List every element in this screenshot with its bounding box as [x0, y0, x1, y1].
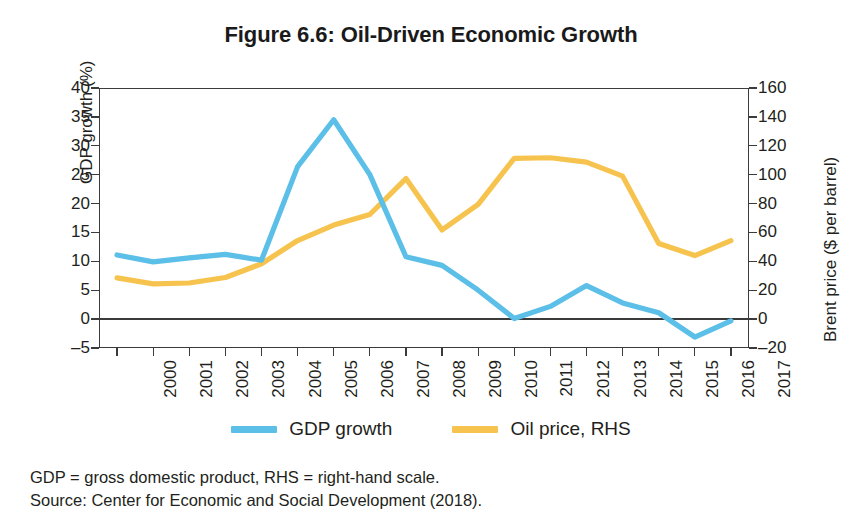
- x-tick-label: 2010: [522, 360, 542, 398]
- series-lines: [99, 88, 749, 348]
- figure-title: Figure 6.6: Oil-Driven Economic Growth: [0, 22, 862, 48]
- right-tick-mark: [749, 116, 757, 117]
- x-tick-mark: [550, 348, 551, 356]
- right-tick-label: 100: [758, 166, 802, 183]
- oil-price-line: [117, 158, 731, 284]
- right-tick-label: 120: [758, 137, 802, 154]
- left-tick-mark: [91, 232, 99, 233]
- x-tick-label: 2017: [775, 360, 795, 398]
- right-tick-label: 0: [758, 310, 802, 327]
- x-tick-label: 2007: [414, 360, 434, 398]
- right-tick-label: –20: [758, 339, 802, 356]
- x-tick-mark: [333, 348, 334, 356]
- right-tick-label: 160: [758, 79, 802, 96]
- figure-footnotes: GDP = gross domestic product, RHS = righ…: [30, 466, 730, 513]
- x-tick-label: 2013: [630, 360, 650, 398]
- legend-swatch-oil-price: [452, 426, 498, 433]
- x-tick-mark: [189, 348, 190, 356]
- left-tick-mark: [91, 203, 99, 204]
- x-tick-label: 2015: [703, 360, 723, 398]
- right-tick-mark: [749, 87, 757, 88]
- x-tick-label: 2005: [341, 360, 361, 398]
- right-tick-label: 20: [758, 281, 802, 298]
- x-tick-label: 2011: [557, 360, 577, 397]
- gdp-growth-line: [117, 120, 731, 337]
- x-tick-mark: [478, 348, 479, 356]
- x-tick-mark: [730, 348, 731, 356]
- x-tick-label: 2003: [269, 360, 289, 398]
- left-tick-label: 15: [50, 223, 90, 240]
- legend-label-oil-price: Oil price, RHS: [510, 418, 630, 440]
- left-tick-label: 20: [50, 195, 90, 212]
- x-tick-label: 2002: [233, 360, 253, 398]
- x-tick-mark: [694, 348, 695, 356]
- footnote-definitions: GDP = gross domestic product, RHS = righ…: [30, 466, 730, 489]
- x-tick-label: 2000: [161, 360, 181, 398]
- x-tick-mark: [441, 348, 442, 356]
- footnote-source: Source: Center for Economic and Social D…: [30, 489, 730, 512]
- x-tick-mark: [225, 348, 226, 356]
- right-tick-mark: [749, 232, 757, 233]
- right-tick-mark: [749, 347, 757, 348]
- right-tick-label: 40: [758, 252, 802, 269]
- plot-area: 4035302520151050–5 160140120100806040200…: [99, 88, 749, 348]
- right-tick-mark: [749, 290, 757, 291]
- left-tick-mark: [91, 290, 99, 291]
- right-axis-label: Brent price ($ per barrel): [821, 157, 841, 342]
- right-tick-mark: [749, 174, 757, 175]
- legend-label-gdp-growth: GDP growth: [289, 418, 392, 440]
- left-tick-label: 0: [50, 310, 90, 327]
- x-tick-mark: [405, 348, 406, 356]
- x-tick-mark: [586, 348, 587, 356]
- x-tick-label: 2009: [486, 360, 506, 398]
- x-tick-mark: [369, 348, 370, 356]
- x-tick-mark: [116, 348, 117, 356]
- figure-container: Figure 6.6: Oil-Driven Economic Growth 4…: [0, 0, 862, 529]
- x-tick-label: 2008: [450, 360, 470, 398]
- legend-item-oil-price: Oil price, RHS: [452, 418, 630, 440]
- x-tick-mark: [153, 348, 154, 356]
- x-tick-mark: [297, 348, 298, 356]
- x-tick-mark: [261, 348, 262, 356]
- right-tick-label: 60: [758, 223, 802, 240]
- right-tick-label: 80: [758, 195, 802, 212]
- legend-swatch-gdp-growth: [231, 426, 277, 433]
- x-tick-mark: [514, 348, 515, 356]
- x-tick-label: 2016: [739, 360, 759, 398]
- left-tick-mark: [91, 347, 99, 348]
- x-tick-mark: [622, 348, 623, 356]
- x-tick-label: 2006: [378, 360, 398, 398]
- left-tick-label: 10: [50, 252, 90, 269]
- left-tick-mark: [91, 318, 99, 319]
- right-tick-label: 140: [758, 108, 802, 125]
- right-tick-mark: [749, 318, 757, 319]
- left-tick-label: 5: [50, 281, 90, 298]
- left-tick-label: –5: [50, 339, 90, 356]
- x-tick-mark: [658, 348, 659, 356]
- left-axis-label: GDP growth (%): [77, 61, 97, 184]
- right-tick-mark: [749, 261, 757, 262]
- x-tick-label: 2004: [305, 360, 325, 398]
- x-tick-label: 2014: [666, 360, 686, 398]
- chart-legend: GDP growth Oil price, RHS: [0, 418, 862, 440]
- x-tick-label: 2012: [594, 360, 614, 398]
- right-tick-mark: [749, 145, 757, 146]
- right-tick-mark: [749, 203, 757, 204]
- legend-item-gdp-growth: GDP growth: [231, 418, 392, 440]
- left-tick-mark: [91, 261, 99, 262]
- x-tick-label: 2001: [197, 360, 217, 398]
